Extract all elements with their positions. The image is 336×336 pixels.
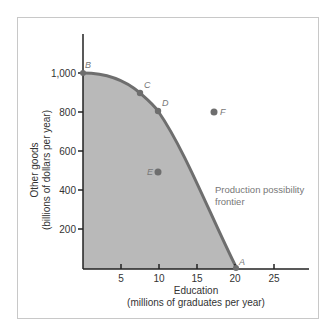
x-axis-title: Education (174, 285, 218, 296)
point-C (137, 90, 143, 96)
y-axis-title: Other goods (29, 142, 40, 197)
x-tick-label: 25 (268, 273, 280, 284)
y-tick-label: 200 (59, 224, 76, 235)
x-tick-label: 15 (191, 273, 203, 284)
x-tick-label: 20 (229, 273, 241, 284)
x-tick-label: 10 (153, 273, 165, 284)
y-tick-label: 1,000 (51, 68, 76, 79)
frontier-annotation-line1: Production possibility (215, 184, 304, 195)
x-tick-label: 5 (118, 273, 124, 284)
ppf-chart: 1,000 800 600 400 200 5 10 15 20 25 Educ… (0, 0, 336, 336)
point-E (155, 169, 162, 176)
y-tick-label: 600 (59, 146, 76, 157)
y-tick-label: 800 (59, 107, 76, 118)
label-A: A (238, 257, 245, 267)
y-tick-label: 400 (59, 185, 76, 196)
x-axis-subtitle: (millions of graduates per year) (127, 297, 265, 308)
label-F: F (220, 107, 226, 117)
point-D (155, 108, 161, 114)
point-B (80, 70, 86, 76)
label-C: C (144, 80, 151, 90)
label-D: D (162, 98, 169, 108)
label-B: B (85, 60, 91, 70)
frontier-annotation-line2: frontier (215, 196, 245, 207)
y-axis-subtitle: (billions of dollars per year) (41, 110, 52, 230)
point-F (211, 109, 218, 116)
label-E: E (147, 167, 154, 177)
